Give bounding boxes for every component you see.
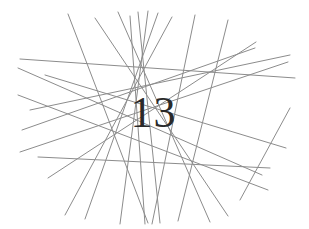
captcha-noise-line [20, 59, 295, 78]
captcha-noise-line [178, 20, 228, 221]
captcha-noise-line [152, 15, 195, 224]
captcha-noise-line [18, 95, 268, 190]
captcha-noise-line [85, 13, 158, 219]
captcha-noise-line [22, 48, 255, 130]
captcha-noise-line [240, 108, 290, 200]
captcha-image: 13 [0, 0, 309, 229]
captcha-noise-line [45, 75, 286, 148]
captcha-noise-line [95, 18, 228, 216]
captcha-noise-lines [0, 0, 309, 229]
captcha-noise-line [20, 62, 288, 152]
